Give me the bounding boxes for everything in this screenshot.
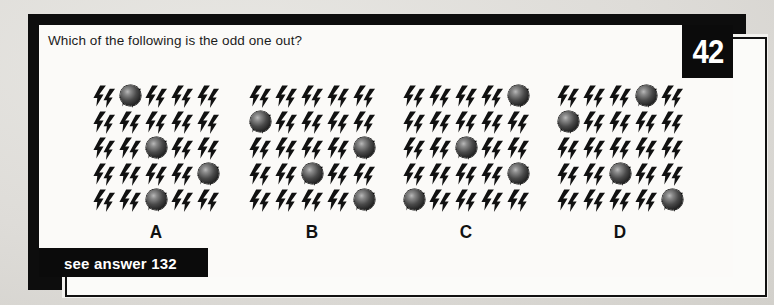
lightning-bolt-icon	[91, 187, 117, 213]
sphere-marker	[508, 163, 529, 184]
lightning-bolt-icon	[607, 109, 633, 135]
lightning-bolt-icon	[401, 83, 427, 109]
lightning-bolt-icon	[659, 109, 685, 135]
sphere-marker	[456, 137, 477, 158]
sphere-marker	[636, 85, 657, 106]
lightning-bolt-icon	[195, 135, 221, 161]
lightning-bolt-icon	[607, 83, 633, 109]
lightning-bolt-icon	[659, 83, 685, 109]
lightning-bolt-icon	[555, 187, 581, 213]
lightning-bolt-icon	[195, 187, 221, 213]
lightning-bolt-icon	[273, 83, 299, 109]
sphere-marker	[558, 111, 579, 132]
lightning-bolt-icon	[247, 83, 273, 109]
option-label-a: A	[98, 221, 215, 243]
option-label-c: C	[408, 221, 525, 243]
lightning-bolt-icon	[505, 135, 531, 161]
lightning-bolt-icon	[581, 109, 607, 135]
question-number-badge: 42	[682, 25, 733, 78]
lightning-bolt-icon	[607, 135, 633, 161]
lightning-bolt-icon	[273, 187, 299, 213]
sphere-marker	[146, 137, 167, 158]
question-number: 42	[693, 34, 724, 68]
lightning-bolt-icon	[169, 161, 195, 187]
see-answer-banner[interactable]: see answer 132	[39, 248, 208, 277]
lightning-bolt-icon	[453, 187, 479, 213]
bolt-grid	[555, 83, 685, 217]
lightning-bolt-icon	[607, 187, 633, 213]
option-panel-d[interactable]	[555, 83, 685, 217]
lightning-bolt-icon	[325, 109, 351, 135]
lightning-bolt-icon	[273, 109, 299, 135]
sphere-marker	[302, 163, 323, 184]
lightning-bolt-icon	[247, 161, 273, 187]
lightning-bolt-icon	[633, 187, 659, 213]
lightning-bolt-icon	[427, 83, 453, 109]
lightning-bolt-icon	[299, 109, 325, 135]
lightning-bolt-icon	[299, 187, 325, 213]
lightning-bolt-icon	[453, 109, 479, 135]
lightning-bolt-icon	[351, 109, 377, 135]
option-panel-b[interactable]	[247, 83, 377, 217]
lightning-bolt-icon	[581, 135, 607, 161]
lightning-bolt-icon	[659, 135, 685, 161]
sphere-marker	[250, 111, 271, 132]
lightning-bolt-icon	[117, 109, 143, 135]
option-label-b: B	[254, 221, 371, 243]
option-panel-c[interactable]	[401, 83, 531, 217]
lightning-bolt-icon	[91, 109, 117, 135]
lightning-bolt-icon	[581, 83, 607, 109]
lightning-bolt-icon	[143, 161, 169, 187]
lightning-bolt-icon	[479, 161, 505, 187]
lightning-bolt-icon	[427, 161, 453, 187]
see-answer-text: see answer 132	[39, 255, 177, 272]
option-panel-a[interactable]	[91, 83, 221, 217]
lightning-bolt-icon	[555, 83, 581, 109]
lightning-bolt-icon	[195, 109, 221, 135]
sphere-marker	[120, 85, 141, 106]
sphere-marker	[610, 163, 631, 184]
lightning-bolt-icon	[453, 161, 479, 187]
lightning-bolt-icon	[505, 187, 531, 213]
lightning-bolt-icon	[659, 161, 685, 187]
bolt-grid	[247, 83, 377, 217]
lightning-bolt-icon	[427, 187, 453, 213]
option-label-d: D	[562, 221, 679, 243]
lightning-bolt-icon	[633, 161, 659, 187]
lightning-bolt-icon	[91, 135, 117, 161]
lightning-bolt-icon	[581, 187, 607, 213]
lightning-bolt-icon	[351, 83, 377, 109]
sphere-marker	[198, 163, 219, 184]
lightning-bolt-icon	[479, 135, 505, 161]
lightning-bolt-icon	[169, 187, 195, 213]
lightning-bolt-icon	[117, 187, 143, 213]
sphere-marker	[146, 189, 167, 210]
lightning-bolt-icon	[505, 109, 531, 135]
lightning-bolt-icon	[91, 83, 117, 109]
lightning-bolt-icon	[299, 135, 325, 161]
lightning-bolt-icon	[247, 187, 273, 213]
lightning-bolt-icon	[169, 83, 195, 109]
sphere-marker	[508, 85, 529, 106]
lightning-bolt-icon	[143, 109, 169, 135]
bolt-grid	[91, 83, 221, 217]
lightning-bolt-icon	[351, 161, 377, 187]
lightning-bolt-icon	[555, 135, 581, 161]
lightning-bolt-icon	[581, 161, 607, 187]
puzzle-card: Which of the following is the odd one ou…	[39, 25, 733, 277]
sphere-marker	[404, 189, 425, 210]
lightning-bolt-icon	[143, 83, 169, 109]
lightning-bolt-icon	[401, 161, 427, 187]
lightning-bolt-icon	[325, 187, 351, 213]
lightning-bolt-icon	[273, 135, 299, 161]
lightning-bolt-icon	[273, 161, 299, 187]
lightning-bolt-icon	[401, 109, 427, 135]
lightning-bolt-icon	[633, 135, 659, 161]
answer-options	[39, 83, 733, 223]
lightning-bolt-icon	[555, 161, 581, 187]
lightning-bolt-icon	[453, 83, 479, 109]
sphere-marker	[662, 189, 683, 210]
sphere-marker	[354, 137, 375, 158]
lightning-bolt-icon	[325, 161, 351, 187]
lightning-bolt-icon	[91, 161, 117, 187]
